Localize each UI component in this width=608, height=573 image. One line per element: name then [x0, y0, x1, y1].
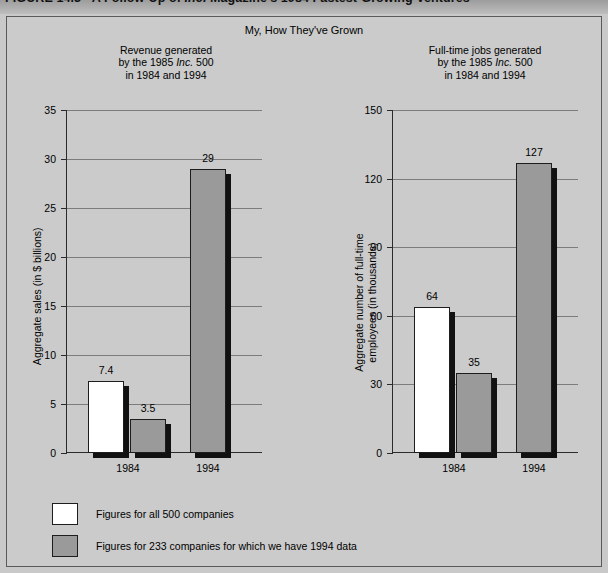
y-tickmark: [387, 179, 393, 180]
bar-jobs-1994-233: [516, 163, 552, 453]
bar-label-revenue-1994-233: 29: [186, 153, 230, 164]
bar-label-jobs-1994-233: 127: [512, 147, 556, 158]
y-tickmark: [61, 159, 67, 160]
plot-area-revenue: 35 30 25 20 15 10 5 0 7.4 3.5 29 1984 19…: [66, 110, 262, 453]
y-tick-0: 0: [348, 448, 382, 458]
bar-body: [88, 381, 124, 454]
chart-title-jobs: Full-time jobs generated by the 1985 Inc…: [390, 44, 580, 81]
chart-title-line-3: in 1984 and 1994: [66, 69, 266, 81]
y-tickmark: [387, 384, 393, 385]
bar-body: [130, 419, 166, 453]
y-tick-15: 15: [24, 301, 56, 311]
figure-title-part1: A Follow-Up of: [92, 0, 185, 5]
y-tickmark: [387, 453, 393, 454]
y-tickmark: [61, 404, 67, 405]
chart-title-line-3: in 1984 and 1994: [390, 69, 580, 81]
figure-caption: FIGURE 14.3 A Follow-Up of Inc. Magazine…: [5, 0, 470, 5]
chart-title-line-1: Full-time jobs generated: [390, 44, 580, 56]
bar-label-revenue-1984-all500: 7.4: [84, 365, 128, 376]
figure-title-italic: Inc.: [185, 0, 207, 5]
bar-revenue-1984-233: [130, 419, 166, 453]
gridline: [66, 159, 262, 160]
gridline: [66, 257, 262, 258]
chart-title-line-1: Revenue generated: [66, 44, 266, 56]
figure-label: FIGURE: [5, 0, 53, 5]
bar-body: [456, 373, 492, 453]
y-tick-30: 30: [24, 154, 56, 164]
y-tickmark: [387, 247, 393, 248]
chart-title-line-2: by the 1985 Inc. 500: [390, 56, 580, 68]
y-tickmark: [387, 110, 393, 111]
y-tickmark: [61, 208, 67, 209]
bar-revenue-1994-233: [190, 169, 226, 453]
bar-body: [190, 169, 226, 453]
gridline: [66, 110, 262, 111]
y-axis-label-revenue: Aggregate sales (in $ billions): [31, 196, 44, 396]
y-tickmark: [61, 110, 67, 111]
bar-label-jobs-1984-233: 35: [452, 357, 496, 368]
legend-swatch-gray: [52, 535, 78, 557]
y-tick-150: 150: [348, 105, 382, 115]
y-tickmark: [61, 306, 67, 307]
y-tick-25: 25: [24, 203, 56, 213]
figure-title-part2: Magazine's 1984 Fastest-Growing Ventures: [206, 0, 469, 5]
y-tickmark: [387, 316, 393, 317]
y-axis-label-jobs: Aggregate number of full-time employees …: [353, 203, 378, 403]
y-tick-20: 20: [24, 252, 56, 262]
y-tick-35: 35: [24, 105, 56, 115]
gridline: [66, 306, 262, 307]
y-tick-5: 5: [24, 399, 56, 409]
bar-body: [516, 163, 552, 453]
x-tick-1984: 1984: [103, 462, 153, 474]
gridline: [66, 355, 262, 356]
gridline: [392, 110, 578, 111]
legend-swatch-white: [52, 503, 78, 525]
y-tick-30: 30: [348, 379, 382, 389]
x-tick-1994: 1994: [183, 462, 233, 474]
bar-label-jobs-1984-all500: 64: [410, 291, 454, 302]
figure-root: FIGURE 14.3 A Follow-Up of Inc. Magazine…: [0, 0, 608, 573]
y-tick-90: 90: [348, 242, 382, 252]
y-tick-10: 10: [24, 350, 56, 360]
figure-header-bar: FIGURE 14.3 A Follow-Up of Inc. Magazine…: [0, 0, 608, 14]
chart-title-line-2: by the 1985 Inc. 500: [66, 56, 266, 68]
y-tickmark: [61, 257, 67, 258]
figure-number: 14.3: [56, 0, 81, 5]
chart-main-title: My, How They've Grown: [0, 24, 608, 36]
legend-item-233: Figures for 233 companies for which we h…: [52, 535, 357, 557]
legend-label-all500: Figures for all 500 companies: [96, 508, 234, 520]
bar-jobs-1984-all500: [414, 307, 450, 453]
y-tick-120: 120: [348, 174, 382, 184]
gridline: [66, 208, 262, 209]
bar-revenue-1984-all500: [88, 381, 124, 454]
bar-label-revenue-1984-233: 3.5: [126, 403, 170, 414]
y-tick-60: 60: [348, 311, 382, 321]
x-tick-1984: 1984: [429, 462, 479, 474]
legend-label-233: Figures for 233 companies for which we h…: [96, 540, 357, 552]
chart-title-revenue: Revenue generated by the 1985 Inc. 500 i…: [66, 44, 266, 81]
x-tick-1994: 1994: [509, 462, 559, 474]
legend-item-all500: Figures for all 500 companies: [52, 503, 234, 525]
bar-jobs-1984-233: [456, 373, 492, 453]
plot-area-jobs: 150 120 90 60 30 0 64 35 127 1984 1994: [392, 110, 578, 453]
y-tick-0: 0: [24, 448, 56, 458]
chart-legend: Figures for all 500 companies Figures fo…: [52, 503, 572, 563]
bar-body: [414, 307, 450, 453]
y-tickmark: [61, 453, 67, 454]
y-tickmark: [61, 355, 67, 356]
